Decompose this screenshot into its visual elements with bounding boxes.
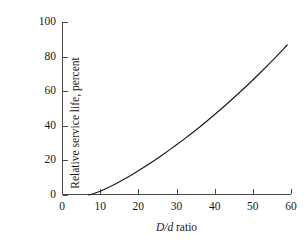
- x-axis-tick-label: 0: [59, 201, 65, 213]
- x-axis-label-suffix: ratio: [173, 221, 197, 233]
- x-axis-tick: [291, 189, 292, 194]
- y-axis-tick-label: 80: [45, 51, 57, 63]
- x-axis-tick-label: 20: [133, 201, 145, 213]
- chart-figure: Relative service life, percent D/d ratio…: [0, 0, 308, 245]
- x-axis-tick-label: 30: [171, 201, 183, 213]
- x-axis-tick-label: 40: [209, 201, 221, 213]
- service-life-curve: [62, 22, 291, 195]
- y-axis-tick-label: 0: [50, 189, 56, 201]
- x-axis-tick-label: 60: [285, 201, 297, 213]
- x-axis-label: D/d ratio: [62, 222, 291, 234]
- x-axis-tick-label: 10: [94, 201, 106, 213]
- y-axis-tick-label: 40: [45, 120, 57, 132]
- y-axis-tick-label: 60: [45, 85, 57, 97]
- y-axis-tick: [63, 195, 68, 196]
- y-axis-tick-label: 100: [39, 16, 56, 28]
- x-axis-label-symbol: D/d: [156, 221, 173, 233]
- plot-area: 020406080100 0102030405060: [62, 22, 291, 195]
- x-axis-tick-label: 50: [247, 201, 259, 213]
- y-axis-tick-label: 20: [45, 155, 57, 167]
